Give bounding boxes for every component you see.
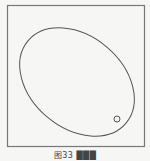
figure: 图33 ███: [0, 0, 150, 161]
small-circle: [114, 116, 120, 122]
figure-caption: 图33 ███: [0, 150, 150, 161]
large-ellipse: [0, 6, 150, 159]
diagram-canvas: [0, 0, 150, 161]
